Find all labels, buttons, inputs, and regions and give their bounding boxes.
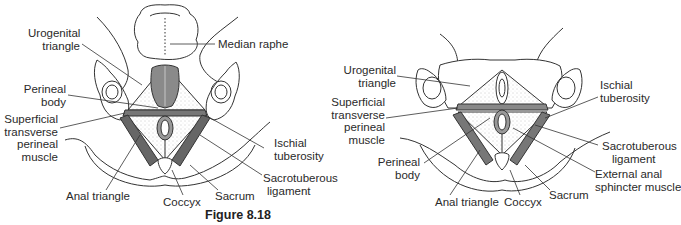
label-line: Perineal [20,83,66,96]
label-perineal-body-left: Perineal body [20,83,66,108]
label-line: tuberosity [274,150,324,163]
label-line: perineal [330,121,385,134]
label-line: muscle [4,151,58,164]
label-line: Ischial [600,79,650,92]
label-line: muscle [330,134,385,147]
label-line: transverse [330,109,385,122]
label-line: triangle [340,77,396,90]
label-line: Perineal [370,156,420,169]
label-ischial-tuberosity-right: Ischial tuberosity [600,79,650,104]
label-line: body [370,169,420,182]
label-sacrotuberous-ligament-right: Sacrotuberous ligament [602,140,677,165]
right-perineum-diagram [400,28,610,191]
label-sacrum-left: Sacrum [215,190,255,203]
label-line: triangle [28,40,80,53]
label-line: Sacrotuberous [263,172,338,185]
label-line: Sacrotuberous [602,140,677,153]
label-line: Ischial [274,137,324,150]
label-line: transverse [4,126,58,139]
label-line: Urogenital [340,64,396,77]
label-coccyx-right: Coccyx [504,196,542,209]
figure-caption: Figure 8.18 [205,208,271,222]
label-urogenital-triangle-right: Urogenital triangle [340,64,396,89]
label-sacrotuberous-ligament-left: Sacrotuberous ligament [263,172,338,197]
label-line: perineal [4,138,58,151]
label-anal-triangle-left: Anal triangle [66,190,130,203]
label-anal-triangle-right: Anal triangle [435,196,499,209]
label-superficial-transverse-perineal-muscle-left: Superficial transverse perineal muscle [4,113,58,163]
label-external-anal-sphincter-muscle: External anal sphincter muscle [595,168,681,193]
label-perineal-body-right: Perineal body [370,156,420,181]
label-median-raphe: Median raphe [218,38,288,51]
left-perineum-diagram [65,5,270,186]
label-urogenital-triangle-left: Urogenital triangle [28,27,80,52]
label-line: ligament [602,153,677,166]
label-line: Urogenital [28,27,80,40]
label-sacrum-right: Sacrum [549,189,589,202]
label-superficial-transverse-perineal-muscle-right: Superficial transverse perineal muscle [330,96,385,146]
label-line: body [20,96,66,109]
label-line: sphincter muscle [595,181,681,194]
label-line: ligament [263,185,338,198]
label-line: Superficial [330,96,385,109]
label-ischial-tuberosity-left: Ischial tuberosity [274,137,324,162]
label-line: External anal [595,168,681,181]
label-line: Superficial [4,113,58,126]
label-line: tuberosity [600,92,650,105]
label-coccyx-left: Coccyx [163,196,201,209]
